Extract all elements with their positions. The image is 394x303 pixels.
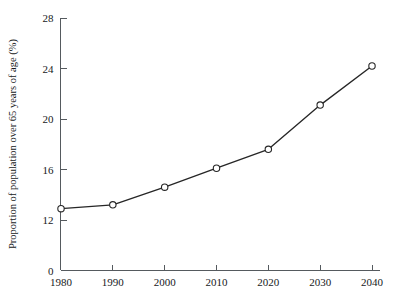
x-axis-ticks [113, 265, 372, 271]
data-point-2030 [317, 102, 323, 108]
y-axis-title: Proportion of population over 65 years o… [7, 39, 19, 249]
y-tick-label-16: 16 [43, 164, 55, 176]
y-tick-label-12: 12 [43, 214, 54, 226]
x-axis: 1980199020002010202020302040 [50, 265, 384, 288]
data-point-2040 [369, 63, 375, 69]
x-tick-label-2010: 2010 [206, 276, 229, 288]
y-axis-tick-labels: 01216202428 [43, 12, 55, 277]
x-tick-label-1980: 1980 [50, 276, 73, 288]
plot-area [58, 63, 375, 212]
data-point-1990 [110, 202, 116, 208]
y-tick-label-20: 20 [43, 113, 55, 125]
x-tick-label-2000: 2000 [154, 276, 177, 288]
data-point-2010 [213, 165, 219, 171]
x-tick-label-2040: 2040 [361, 276, 384, 288]
y-tick-label-28: 28 [43, 12, 55, 24]
series-markers [58, 63, 375, 212]
data-point-2000 [161, 184, 167, 190]
y-axis-ticks [61, 18, 67, 220]
y-tick-label-24: 24 [43, 63, 55, 75]
data-point-1980 [58, 205, 64, 211]
line-chart: 01216202428 Proportion of population ove… [0, 0, 394, 303]
data-point-2020 [265, 146, 271, 152]
x-axis-tick-labels: 1980199020002010202020302040 [50, 276, 384, 288]
series-line-population-over-65 [61, 66, 372, 209]
x-tick-label-2030: 2030 [309, 276, 332, 288]
y-axis: 01216202428 Proportion of population ove… [7, 12, 67, 277]
chart-canvas: 01216202428 Proportion of population ove… [0, 0, 394, 303]
x-tick-label-1990: 1990 [102, 276, 125, 288]
x-tick-label-2020: 2020 [257, 276, 280, 288]
